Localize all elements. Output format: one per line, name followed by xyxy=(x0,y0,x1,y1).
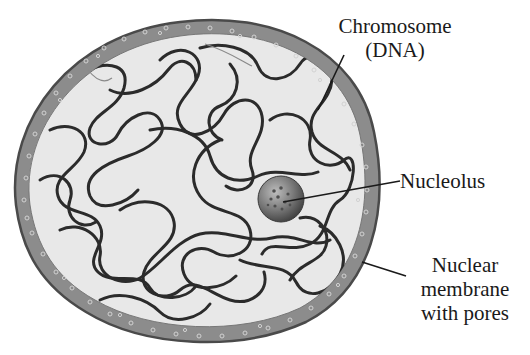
label-membrane-line2: membrane xyxy=(405,277,525,301)
label-membrane-line1: Nuclear xyxy=(405,253,525,277)
label-membrane-line3: with pores xyxy=(405,301,525,325)
nuclear-membrane xyxy=(15,20,379,342)
label-nucleolus-line1: Nucleolus xyxy=(400,169,510,193)
label-nucleolus: Nucleolus xyxy=(400,169,510,193)
label-nuclear-membrane: Nuclear membrane with pores xyxy=(405,253,525,325)
label-chromosome-dna: Chromosome (DNA) xyxy=(322,14,468,62)
leader-line-membrane xyxy=(362,262,406,276)
label-chromosome-line1: Chromosome xyxy=(322,14,468,38)
label-chromosome-line2: (DNA) xyxy=(322,38,468,62)
